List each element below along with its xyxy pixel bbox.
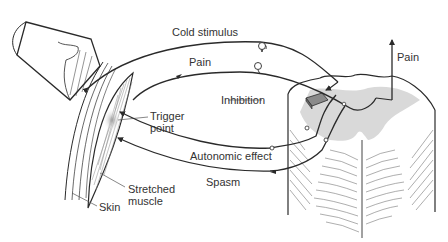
- pain-ganglion-icon: [255, 63, 262, 70]
- label-trigger-point-1: Trigger: [150, 110, 184, 122]
- label-spasm: Spasm: [206, 176, 240, 188]
- label-cold-stimulus: Cold stimulus: [172, 26, 238, 38]
- label-stretched-muscle-2: muscle: [128, 195, 163, 207]
- spasm-synapse-icon: [324, 138, 328, 142]
- label-skin: Skin: [99, 201, 120, 213]
- ice-cup-icon: [13, 22, 100, 100]
- label-trigger-point-2: point: [150, 122, 174, 134]
- label-pain-afferent: Pain: [189, 56, 211, 68]
- stretched-muscle: [88, 73, 133, 208]
- label-pain-ascending: Pain: [397, 51, 419, 63]
- label-autonomic-effect: Autonomic effect: [190, 150, 272, 162]
- label-inhibition: Inhibition: [221, 94, 265, 106]
- synapse-icon: [342, 102, 346, 106]
- muscle-leader: [100, 173, 125, 187]
- cold-receptor-ganglion-icon: [259, 43, 266, 50]
- label-stretched-muscle-1: Stretched: [128, 183, 175, 195]
